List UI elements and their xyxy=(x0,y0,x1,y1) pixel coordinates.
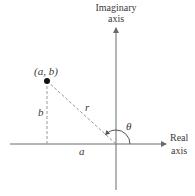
radius-label: r xyxy=(85,101,90,113)
angle-arc xyxy=(106,130,130,144)
point-marker xyxy=(44,78,50,84)
horizontal-axis-label: Real xyxy=(170,132,189,143)
vertical-axis-label: Imaginary xyxy=(95,2,136,13)
vertical-axis-label-2: axis xyxy=(108,13,124,24)
complex-plane-diagram: Imaginary axis Real axis (a, b) r θ a b xyxy=(0,0,195,196)
horizontal-axis-label-2: axis xyxy=(171,145,187,156)
point-label: (a, b) xyxy=(34,65,58,78)
vertical-leg-label: b xyxy=(38,106,44,118)
angle-label: θ xyxy=(126,120,132,132)
horizontal-leg-label: a xyxy=(79,145,85,157)
